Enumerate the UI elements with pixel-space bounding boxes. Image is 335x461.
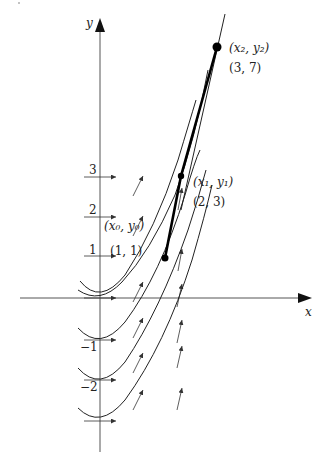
- solution-curve-lower: [78, 185, 212, 417]
- point-p0-coords: (1, 1): [110, 244, 142, 258]
- point-p1-symbol: (x₁, y₁): [193, 175, 233, 189]
- point-p2-coords: (3, 7): [229, 61, 261, 75]
- y-tick-labels: 3 2 1 −1 −2: [80, 163, 98, 394]
- point-p0: [162, 255, 169, 262]
- tick-label-neg2: −2: [80, 380, 98, 394]
- tick-label-3: 3: [89, 163, 97, 177]
- axes: y x: [20, 16, 312, 452]
- tick-label-1: 1: [89, 243, 97, 257]
- diagram-canvas: y x 3 2 1 −1 −2: [0, 0, 335, 461]
- solution-curves: [78, 70, 212, 417]
- y-axis-label: y: [85, 16, 93, 30]
- point-p0-symbol: (x₀, y₀): [104, 219, 144, 233]
- y-axis-arrowhead-icon: [95, 18, 105, 32]
- x-axis-arrowhead-icon: [298, 293, 312, 303]
- x-axis-label: x: [305, 305, 312, 319]
- point-p2-symbol: (x₂, y₂): [229, 41, 269, 55]
- euler-polygon: [165, 47, 217, 258]
- point-p1: [178, 173, 184, 179]
- tick-label-neg1: −1: [80, 340, 98, 354]
- point-p2: [213, 43, 222, 52]
- tick-label-2: 2: [89, 203, 97, 217]
- point-p1-coords: (2, 3): [193, 195, 225, 209]
- solution-curve-upper: [80, 100, 196, 292]
- stray-dot: [18, 2, 20, 4]
